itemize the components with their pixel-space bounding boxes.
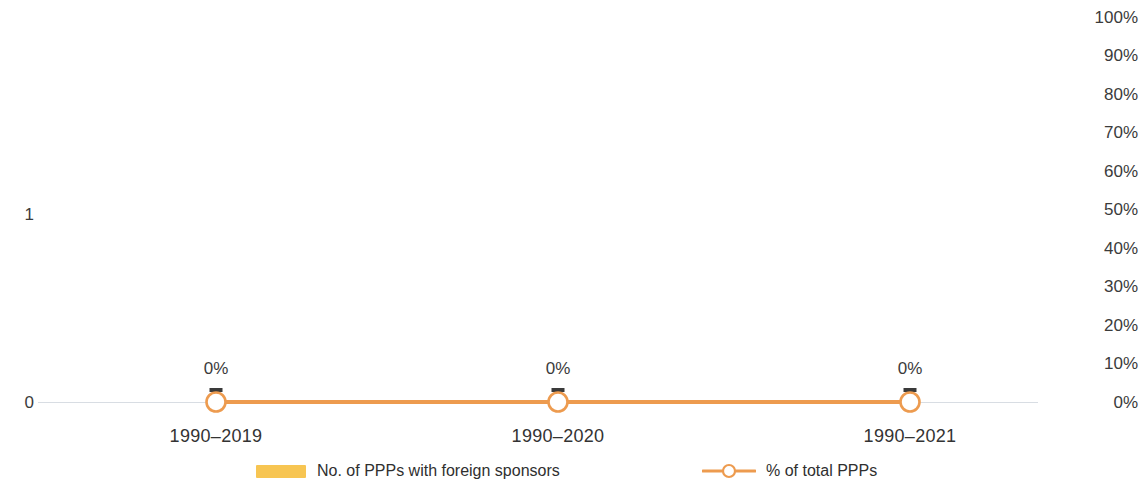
chart-title [495,0,915,2]
right-axis-tick: 40% [1104,240,1138,258]
category-label: 1990–2021 [864,425,957,447]
right-axis-tick: 100% [1095,9,1138,27]
data-label: 0% [898,360,923,378]
data-label: 0% [204,360,229,378]
right-axis-tick: 50% [1104,201,1138,219]
chart-legend: No. of PPPs with foreign sponsors % of t… [0,458,1146,488]
legend-line-marker-icon [702,463,756,479]
chart-container: 1 0 100% 90% 80% 70% 60% 50% 40% 30% 20%… [0,0,1146,488]
legend-item-bar-series[interactable]: No. of PPPs with foreign sponsors [256,460,560,482]
legend-label: % of total PPPs [766,462,877,480]
right-axis-tick: 80% [1104,86,1138,104]
right-axis-tick: 70% [1104,124,1138,142]
left-value-axis: 1 0 [0,0,34,412]
right-axis-tick: 60% [1104,163,1138,181]
legend-item-line-series[interactable]: % of total PPPs [702,460,877,482]
right-axis-tick: 30% [1104,278,1138,296]
right-percent-axis: 100% 90% 80% 70% 60% 50% 40% 30% 20% 10%… [1046,0,1142,412]
right-axis-tick: 10% [1104,355,1138,373]
right-axis-tick: 0% [1113,394,1138,412]
data-label: 0% [546,360,571,378]
category-label: 1990–2020 [512,425,605,447]
right-axis-tick: 90% [1104,47,1138,65]
plot-area: 0% 0% 0% 1990–2019 1990–2020 1990–2021 [38,8,1038,404]
line-series [38,8,1038,404]
left-axis-tick: 0 [25,394,34,412]
legend-label: No. of PPPs with foreign sponsors [317,462,560,480]
right-axis-tick: 20% [1104,317,1138,335]
left-axis-tick: 1 [25,206,34,224]
legend-color-swatch-icon [256,465,306,478]
category-label: 1990–2019 [170,425,263,447]
